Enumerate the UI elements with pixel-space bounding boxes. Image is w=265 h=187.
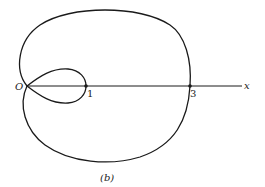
point-1-label: 1 bbox=[87, 88, 93, 99]
origin-label: O bbox=[15, 81, 23, 92]
figure-caption: (b) bbox=[100, 172, 114, 183]
point-3-label: 3 bbox=[190, 88, 196, 99]
limacon-diagram: O 1 3 x (b) bbox=[0, 0, 265, 187]
x-axis-label: x bbox=[244, 80, 250, 91]
